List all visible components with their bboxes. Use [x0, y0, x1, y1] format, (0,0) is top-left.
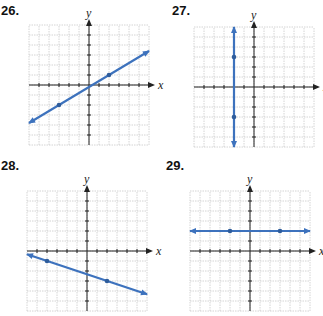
x-axis-label: x [155, 244, 162, 258]
y-axis-label: y [85, 6, 92, 20]
data-point [232, 55, 237, 60]
y-axis-label: y [250, 8, 257, 22]
y-axis-label: y [246, 172, 253, 186]
x-axis-arrow-icon [148, 82, 155, 88]
data-point [105, 279, 110, 284]
graph-26: xy [28, 6, 164, 145]
graph-28: xy [26, 172, 162, 311]
graph-29: xy [189, 172, 323, 311]
graph-27: xy [194, 8, 323, 148]
y-axis-label: y [83, 172, 90, 186]
data-point [107, 73, 112, 78]
y-axis-arrow-icon [247, 185, 253, 192]
x-axis-arrow-icon [309, 248, 316, 254]
data-point [278, 229, 283, 234]
x-axis-arrow-icon [313, 84, 320, 90]
data-point [232, 115, 237, 120]
data-point [228, 229, 233, 234]
x-axis-label: x [318, 244, 323, 258]
x-axis-label: x [157, 78, 164, 92]
y-axis-arrow-icon [86, 19, 92, 26]
y-axis-arrow-icon [84, 185, 90, 192]
x-axis-arrow-icon [146, 248, 153, 254]
data-point [57, 103, 62, 108]
y-axis-arrow-icon [251, 21, 257, 28]
graphs: xyxyxyxy [0, 0, 323, 316]
data-point [45, 259, 50, 264]
